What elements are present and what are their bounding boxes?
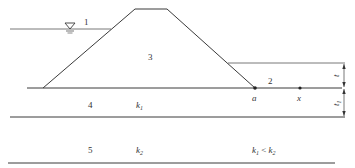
region-5-label: 5 xyxy=(88,145,93,155)
dam-outline xyxy=(43,9,255,88)
point-a-marker xyxy=(253,86,257,90)
water-level-icon xyxy=(65,23,75,33)
region-4-label: 4 xyxy=(88,100,93,110)
region-3-label: 3 xyxy=(148,52,153,62)
point-a-label: a xyxy=(252,93,257,103)
dimension-t xyxy=(342,64,345,87)
k1-label: k1 xyxy=(136,100,143,111)
region-1-label: 1 xyxy=(84,17,89,27)
point-x-marker xyxy=(298,86,301,89)
dimension-t1 xyxy=(342,89,345,116)
region-2-label: 2 xyxy=(268,76,273,86)
k2-label: k2 xyxy=(136,145,143,156)
permeability-relation: k1 < k2 xyxy=(252,145,276,156)
dam-diagram: 1 3 2 4 5 k1 k2 k1 < k2 a x t t1 xyxy=(0,0,355,168)
dimension-t1-label: t1 xyxy=(331,100,342,106)
dimension-t-label: t xyxy=(331,74,341,77)
point-x-label: x xyxy=(296,93,301,103)
